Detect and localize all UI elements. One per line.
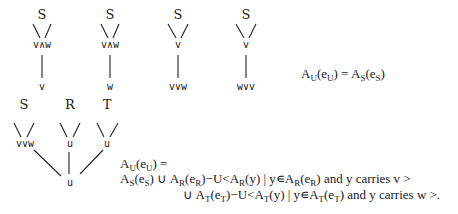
subtree-mid-t: u [87, 139, 127, 149]
tree-root: S [236, 8, 256, 21]
tree-mid: v∧w [22, 40, 62, 50]
tree-mid: v [226, 40, 266, 50]
subtree-root-s: S [14, 98, 34, 111]
subtree-mid-r: u [50, 139, 90, 149]
bottom-node: u [50, 178, 90, 188]
subtree-root-t: T [97, 98, 117, 111]
tree-leaf: w [90, 82, 130, 92]
tree-leaf: w∨v [226, 82, 266, 92]
tree-mid: v∧w [90, 40, 130, 50]
tree-leaf: v∨w [158, 82, 198, 92]
tree-root: S [168, 8, 188, 21]
tree-leaf: v [22, 82, 62, 92]
subtree-mid-s: v∨w [5, 139, 45, 149]
tree-root: S [100, 8, 120, 21]
bottom-equation-line3: ∪ AT(eT)−U<AT(y) | y∊AT(eT) and y carrie… [183, 187, 440, 207]
subtree-root-r: R [60, 98, 80, 111]
tree-root: S [32, 8, 52, 21]
tree-mid: v [158, 40, 198, 50]
top-equation: AU(eU) = AS(eS) [301, 66, 385, 86]
